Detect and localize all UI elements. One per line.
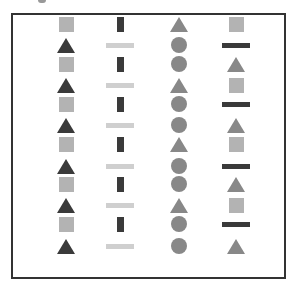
shape-cell [46, 195, 86, 215]
shape-cell [100, 134, 140, 154]
shape-cell [216, 35, 256, 55]
shape-cell [216, 115, 256, 135]
hbar-icon [106, 244, 134, 249]
shape-cell [46, 156, 86, 176]
shape-cell [100, 75, 140, 95]
triangle-icon [57, 78, 75, 93]
circle-icon [171, 216, 187, 232]
hbar-icon [222, 43, 250, 48]
shape-cell [159, 94, 199, 114]
shape-cell [159, 195, 199, 215]
triangle-icon [170, 137, 188, 152]
shape-cell [46, 75, 86, 95]
vbar-icon [117, 137, 124, 152]
shape-cell [159, 134, 199, 154]
hbar-icon [106, 164, 134, 169]
hbar-icon [106, 43, 134, 48]
shape-cell [216, 75, 256, 95]
shape-cell [216, 174, 256, 194]
shape-cell [100, 35, 140, 55]
hbar-icon [106, 123, 134, 128]
vbar-icon [117, 177, 124, 192]
shape-cell [46, 174, 86, 194]
square-icon [59, 97, 74, 112]
shape-cell [100, 94, 140, 114]
shape-cell [100, 174, 140, 194]
shape-cell [100, 195, 140, 215]
shape-cell [216, 134, 256, 154]
triangle-icon [227, 177, 245, 192]
shape-cell [46, 54, 86, 74]
circle-icon [171, 56, 187, 72]
shape-cell [216, 195, 256, 215]
shape-cell [159, 75, 199, 95]
shape-cell [46, 35, 86, 55]
triangle-icon [170, 198, 188, 213]
square-icon [229, 78, 244, 93]
vbar-icon [117, 97, 124, 112]
triangle-icon [227, 118, 245, 133]
shape-cell [216, 214, 256, 234]
shape-cell [159, 14, 199, 34]
circle-icon [171, 117, 187, 133]
vbar-icon [117, 57, 124, 72]
shape-cell [159, 115, 199, 135]
vbar-icon [117, 17, 124, 32]
hbar-icon [222, 102, 250, 107]
shape-cell [159, 156, 199, 176]
circle-icon [171, 176, 187, 192]
triangle-icon [57, 118, 75, 133]
shape-cell [159, 214, 199, 234]
triangle-icon [227, 239, 245, 254]
shape-cell [159, 54, 199, 74]
square-icon [59, 17, 74, 32]
square-icon [59, 57, 74, 72]
shape-cell [46, 94, 86, 114]
shape-cell [159, 236, 199, 256]
shape-cell [100, 115, 140, 135]
square-icon [229, 198, 244, 213]
hbar-icon [222, 164, 250, 169]
shape-cell [216, 156, 256, 176]
shape-pattern-frame [11, 13, 286, 279]
shape-cell [100, 54, 140, 74]
shape-cell [46, 134, 86, 154]
hbar-icon [106, 83, 134, 88]
shape-cell [46, 14, 86, 34]
triangle-icon [170, 17, 188, 32]
shape-cell [216, 236, 256, 256]
circle-icon [171, 158, 187, 174]
shape-cell [100, 156, 140, 176]
square-icon [59, 177, 74, 192]
square-icon [229, 17, 244, 32]
shape-cell [100, 236, 140, 256]
square-icon [229, 137, 244, 152]
shape-cell [216, 54, 256, 74]
triangle-icon [227, 57, 245, 72]
shape-cell [46, 115, 86, 135]
shape-cell [46, 236, 86, 256]
triangle-icon [57, 239, 75, 254]
cropped-caption-fragment [38, 0, 46, 3]
circle-icon [171, 96, 187, 112]
circle-icon [171, 238, 187, 254]
triangle-icon [57, 159, 75, 174]
circle-icon [171, 37, 187, 53]
triangle-icon [57, 38, 75, 53]
square-icon [59, 137, 74, 152]
shape-cell [46, 214, 86, 234]
vbar-icon [117, 217, 124, 232]
triangle-icon [57, 198, 75, 213]
triangle-icon [170, 78, 188, 93]
shape-cell [159, 35, 199, 55]
shape-cell [216, 14, 256, 34]
hbar-icon [106, 203, 134, 208]
shape-cell [100, 14, 140, 34]
shape-cell [159, 174, 199, 194]
shape-cell [100, 214, 140, 234]
hbar-icon [222, 222, 250, 227]
square-icon [59, 217, 74, 232]
shape-cell [216, 94, 256, 114]
